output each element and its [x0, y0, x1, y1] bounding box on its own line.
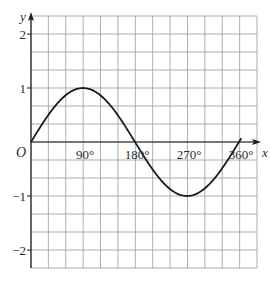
y-tick-labels: 21−1−2 [12, 27, 31, 258]
y-tick-label: −2 [12, 243, 26, 258]
x-axis-label: x [261, 145, 268, 160]
axis-labels: y x O 90°180°270°360° 21−1−2 [12, 9, 268, 258]
x-tick-label: 90° [76, 147, 94, 162]
x-tick-label: 270° [177, 147, 202, 162]
axes [28, 12, 261, 268]
y-tick-label: 1 [20, 81, 27, 96]
y-tick-label: 2 [20, 27, 27, 42]
y-tick-label: −1 [12, 189, 26, 204]
x-tick-label: 360° [229, 147, 254, 162]
y-axis-label: y [18, 9, 26, 24]
sine-chart: y x O 90°180°270°360° 21−1−2 [0, 0, 270, 287]
origin-label: O [16, 145, 26, 160]
x-tick-label: 180° [125, 147, 150, 162]
